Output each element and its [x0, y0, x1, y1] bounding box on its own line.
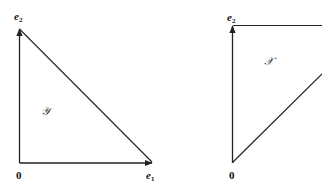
- left-hypotenuse: [20, 29, 153, 162]
- left-panel-triangle: [20, 29, 153, 163]
- left-e1-sub: 1: [151, 175, 155, 183]
- left-e1-label: e1: [146, 170, 154, 183]
- right-e2-label: e2: [227, 12, 235, 25]
- diagram-canvas: [0, 0, 322, 193]
- right-diagonal-ray: [233, 74, 322, 163]
- right-origin-label: 0: [229, 170, 235, 181]
- left-e2-sub: 2: [19, 16, 23, 24]
- left-e2-label: e2: [14, 11, 22, 24]
- left-origin-label: 0: [16, 170, 22, 181]
- left-region-label: 𝒴: [41, 106, 50, 117]
- right-e2-sub: 2: [232, 17, 236, 25]
- right-panel-wedge: [233, 26, 322, 164]
- right-region-label: 𝒳: [264, 56, 273, 67]
